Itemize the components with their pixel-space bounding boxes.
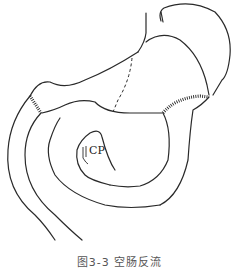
jejunal-loop-middle [48, 118, 160, 208]
stomach-lower-wall [42, 101, 162, 113]
suture-left [30, 96, 41, 113]
esophagus-left-wall [138, 13, 146, 52]
anastomosis-inner [110, 113, 169, 187]
jejunal-loop-inner [77, 131, 115, 185]
fundus-curve [160, 4, 230, 95]
cp-pointer-lines [83, 146, 88, 164]
cp-label: CP [89, 144, 105, 157]
resection-line [113, 58, 132, 112]
afferent-limb-outer [8, 96, 55, 240]
figure-caption: 图3-3 空肠反流 [0, 253, 239, 269]
stomach-inner-curve [146, 35, 209, 95]
efferent-limb-outer [160, 97, 209, 205]
stomach-upper-wall [30, 52, 138, 96]
